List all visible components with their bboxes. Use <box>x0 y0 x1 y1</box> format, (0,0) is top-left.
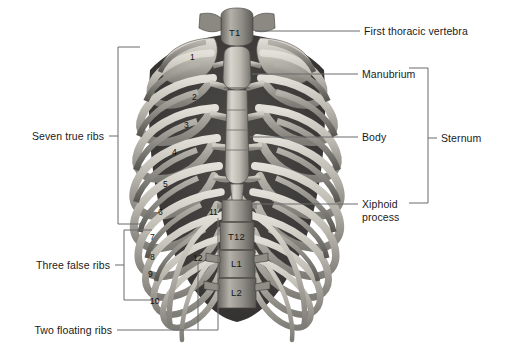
rib-number-3: 3 <box>184 121 189 130</box>
sternum-body-bone <box>225 90 249 184</box>
manubrium-bone <box>223 46 251 90</box>
rib-number-8: 8 <box>150 253 155 262</box>
rib-number-11: 11 <box>209 208 218 217</box>
rib-number-9: 9 <box>148 270 153 279</box>
vertebra-label-l2: L2 <box>231 288 242 298</box>
vertebra-label-l1: L1 <box>231 259 242 269</box>
rib-number-1: 1 <box>190 53 195 62</box>
callout-two-floating-ribs: Two floating ribs <box>0 324 112 337</box>
bracket-sternum <box>409 68 428 203</box>
callout-sternum: Sternum <box>441 132 481 145</box>
figure-canvas: First thoracic vertebra Manubrium Body X… <box>0 0 511 360</box>
vertebra-label-t12: T12 <box>228 232 245 242</box>
rib-number-5: 5 <box>163 180 168 189</box>
callout-manubrium: Manubrium <box>362 68 415 81</box>
vertebra-label-t1: T1 <box>229 28 241 38</box>
rib-number-6: 6 <box>158 208 163 217</box>
ribcage-illustration <box>0 0 511 360</box>
rib-number-2: 2 <box>192 93 197 102</box>
rib-number-10: 10 <box>150 297 159 306</box>
callout-body: Body <box>362 131 386 144</box>
callout-three-false-ribs: Three false ribs <box>0 259 110 272</box>
callout-xiphoid-process: Xiphoid process <box>362 198 399 223</box>
callout-seven-true-ribs: Seven true ribs <box>0 130 104 143</box>
rib-number-4: 4 <box>172 148 177 157</box>
callout-first-thoracic-vertebra: First thoracic vertebra <box>364 25 468 38</box>
rib-number-12: 12 <box>193 254 202 263</box>
rib-number-7: 7 <box>150 233 155 242</box>
